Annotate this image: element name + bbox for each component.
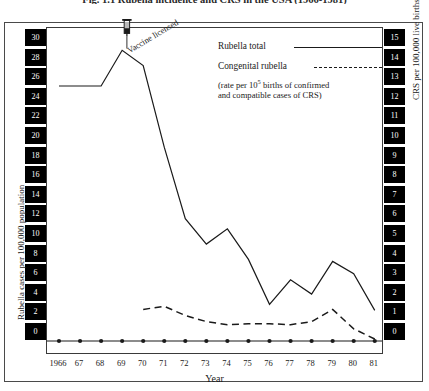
legend-item-rubella-total: Rubella total — [218, 41, 386, 54]
y-left-tick-6: 6 — [25, 264, 46, 281]
y-right-tick-8: 8 — [384, 166, 405, 183]
x-tick-79: 79 — [327, 358, 336, 368]
y-axis-left-title: Rubella cases per 100,000 population — [16, 185, 26, 320]
y-left-tick-24: 24 — [25, 88, 46, 105]
y-left-tick-0: 0 — [25, 323, 46, 340]
legend-note: (rate per 105 births of confirmed and co… — [218, 77, 386, 101]
y-right-tick-15: 15 — [384, 29, 405, 46]
y-right-tick-13: 13 — [384, 68, 405, 85]
series-line-congenital-rubella — [143, 306, 375, 339]
y-left-tick-14: 14 — [25, 186, 46, 203]
y-left-tick-22: 22 — [25, 107, 46, 124]
y-right-tick-1: 1 — [384, 303, 405, 320]
x-tick-80: 80 — [348, 358, 357, 368]
y-right-tick-3: 3 — [384, 264, 405, 281]
x-tick-1966: 1966 — [50, 358, 67, 368]
y-axis-right-title: CRS per 100,000 live births — [411, 0, 421, 100]
x-tick-70: 70 — [138, 358, 147, 368]
legend-label-congenital-rubella: Congenital rubella — [218, 61, 287, 71]
figure-root: Fig. 1.1 Rubella incidence and CRS in th… — [0, 0, 429, 391]
legend-swatch-dashed — [314, 67, 382, 68]
x-tick-78: 78 — [306, 358, 315, 368]
x-tick-81: 81 — [370, 358, 379, 368]
y-right-tick-14: 14 — [384, 49, 405, 66]
y-left-tick-26: 26 — [25, 68, 46, 85]
x-tick-69: 69 — [117, 358, 126, 368]
legend-note-line1-b: births of confirmed — [261, 80, 330, 90]
y-right-tick-0: 0 — [384, 323, 405, 340]
x-tick-68: 68 — [96, 358, 105, 368]
x-tick-77: 77 — [285, 358, 294, 368]
x-tick-67: 67 — [75, 358, 84, 368]
y-left-tick-8: 8 — [25, 245, 46, 262]
legend-label-rubella-total: Rubella total — [218, 41, 266, 51]
x-tick-76: 76 — [264, 358, 273, 368]
y-left-tick-28: 28 — [25, 49, 46, 66]
y-right-tick-10: 10 — [384, 127, 405, 144]
x-tick-72: 72 — [180, 358, 189, 368]
figure-title: Fig. 1.1 Rubella incidence and CRS in th… — [0, 0, 429, 4]
y-left-tick-2: 2 — [25, 303, 46, 320]
x-tick-74: 74 — [222, 358, 231, 368]
x-tick-73: 73 — [201, 358, 210, 368]
x-tick-71: 71 — [159, 358, 168, 368]
legend-swatch-solid — [294, 47, 382, 48]
y-right-tick-9: 9 — [384, 147, 405, 164]
y-right-tick-7: 7 — [384, 186, 405, 203]
y-right-tick-6: 6 — [384, 205, 405, 222]
y-left-tick-10: 10 — [25, 225, 46, 242]
x-axis-title: Year — [0, 373, 429, 384]
y-left-tick-4: 4 — [25, 284, 46, 301]
y-left-tick-16: 16 — [25, 166, 46, 183]
y-right-tick-5: 5 — [384, 225, 405, 242]
legend-note-line2: and compatible cases of CRS) — [218, 90, 322, 100]
x-axis-tick-labels: 1966676869707172737475767778798081 — [46, 358, 383, 371]
legend-note-line1-a: (rate per 10 — [218, 80, 258, 90]
y-right-tick-11: 11 — [384, 107, 405, 124]
x-tick-75: 75 — [243, 358, 252, 368]
y-right-tick-2: 2 — [384, 284, 405, 301]
y-right-tick-12: 12 — [384, 88, 405, 105]
y-left-tick-18: 18 — [25, 147, 46, 164]
legend: Rubella total Congenital rubella (rate p… — [218, 41, 386, 101]
legend-item-congenital-rubella: Congenital rubella — [218, 61, 386, 76]
y-left-tick-30: 30 — [25, 29, 46, 46]
y-left-tick-20: 20 — [25, 127, 46, 144]
y-right-tick-4: 4 — [384, 245, 405, 262]
y-left-tick-12: 12 — [25, 205, 46, 222]
